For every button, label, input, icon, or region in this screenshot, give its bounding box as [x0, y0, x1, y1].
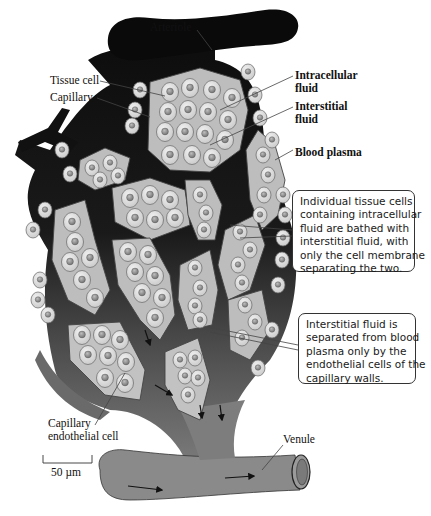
scale-bar [43, 455, 92, 463]
label-interstitial-fluid: Interstitial fluid [295, 100, 347, 126]
label-capillary: Capillary [50, 91, 93, 104]
label-tissue-cell: Tissue cell [50, 74, 99, 87]
capillary-bed-diagram: Arteriole Tissue cell Capillary Intracel… [0, 0, 431, 516]
callout-interstitial-fluid: Interstitial fluid is separated from blo… [298, 313, 416, 384]
label-scale-bar: 50 µm [51, 466, 81, 479]
label-intracellular-fluid: Intracellular fluid [295, 69, 358, 95]
label-arteriole: Arteriole [150, 21, 192, 34]
label-venule: Venule [283, 433, 315, 446]
label-blood-plasma: Blood plasma [295, 146, 362, 159]
label-capillary-endothelial-cell: Capillary endothelial cell [48, 417, 119, 443]
callout-tissue-cells: Individual tissue cells containing intra… [292, 190, 415, 272]
